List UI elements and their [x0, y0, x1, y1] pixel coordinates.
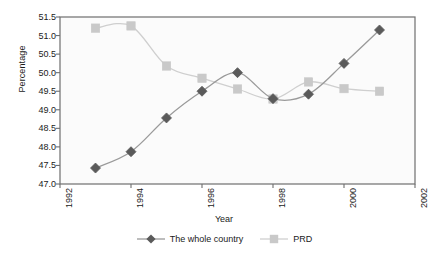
legend-square-icon [259, 233, 289, 245]
y-axis-tick-label: 47.5 [22, 161, 56, 170]
plot-frame [60, 17, 415, 184]
data-point-marker [127, 22, 135, 30]
data-point-marker [91, 24, 99, 32]
chart-figure: Percentage 47.047.548.048.549.049.550.05… [0, 0, 448, 256]
data-point-marker [375, 87, 383, 95]
y-axis-tick-label: 48.5 [22, 124, 56, 133]
legend-item-1[interactable]: The whole country [136, 233, 244, 245]
y-axis-tick-label: 49.5 [22, 87, 56, 96]
data-point-marker [304, 78, 312, 86]
legend-diamond-icon [136, 233, 166, 245]
x-axis-label: Year [0, 214, 448, 224]
data-point-marker [198, 74, 206, 82]
x-axis-tick-label: 2002 [420, 188, 429, 208]
legend-item-2[interactable]: PRD [259, 233, 312, 245]
y-axis-tick-label: 47.0 [22, 180, 56, 189]
chart-legend: The whole countryPRD [0, 233, 448, 245]
y-axis-tick-label: 51.0 [22, 31, 56, 40]
legend-label: PRD [293, 234, 312, 244]
y-axis-tick-label: 51.5 [22, 13, 56, 22]
y-axis-tick-label: 50.5 [22, 50, 56, 59]
y-axis-tick-label: 48.0 [22, 142, 56, 151]
x-axis-tick-label: 2000 [349, 188, 358, 208]
x-axis-tick-label: 1996 [207, 188, 216, 208]
legend-label: The whole country [170, 234, 244, 244]
data-point-marker [162, 62, 170, 70]
x-axis-tick-label: 1992 [65, 188, 74, 208]
x-axis-tick-label: 1994 [136, 188, 145, 208]
y-axis-tick-label: 49.0 [22, 105, 56, 114]
y-axis-tick-label: 50.0 [22, 68, 56, 77]
data-point-marker [233, 85, 241, 93]
data-point-marker [340, 84, 348, 92]
x-axis-tick-label: 1998 [278, 188, 287, 208]
